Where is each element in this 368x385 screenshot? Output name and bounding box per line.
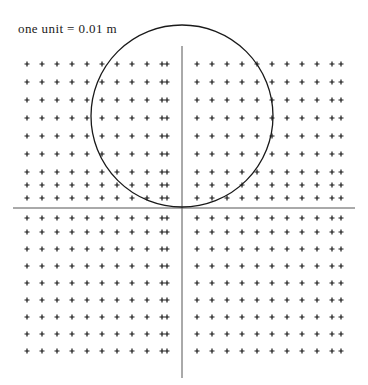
figure-background: [0, 0, 368, 385]
figure-canvas: [0, 0, 368, 385]
scale-annotation: one unit = 0.01 m: [18, 22, 117, 35]
scatter-grid-figure: one unit = 0.01 m: [0, 0, 368, 385]
